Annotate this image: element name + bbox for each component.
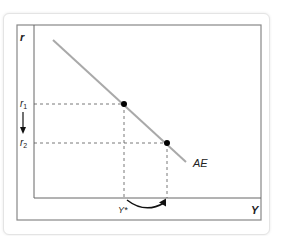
plot-frame — [17, 25, 261, 220]
ae-label: AE — [192, 157, 208, 169]
r1-point — [121, 101, 127, 107]
curved-arrow-icon — [127, 200, 164, 208]
y-star-label: Y* — [118, 205, 128, 215]
r1-label: r1 — [20, 98, 27, 110]
curved-arrowhead-icon — [159, 198, 169, 208]
down-arrowhead-icon — [20, 127, 26, 134]
ae-diagram: r Y AE r1 r2 Y* — [0, 0, 284, 236]
r2-label: r2 — [20, 137, 27, 149]
y-axis-label: r — [20, 31, 25, 43]
x-axis-label: Y — [251, 204, 260, 216]
r2-point — [164, 140, 170, 146]
